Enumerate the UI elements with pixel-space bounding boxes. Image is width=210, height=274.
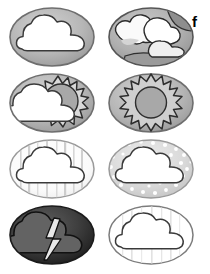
- light-showers-icon-art: [105, 202, 197, 268]
- thunderstorm-icon: [6, 202, 98, 268]
- snow-icon-art: [105, 136, 197, 202]
- sun-disc: [136, 87, 167, 118]
- thunderstorm-icon-art: [6, 202, 98, 268]
- broken-clouds-icon: [105, 4, 197, 70]
- broken-clouds-icon-art: [105, 4, 197, 70]
- partly-sunny-icon: [6, 70, 98, 136]
- cloudy-icon-art: [6, 4, 98, 70]
- weather-icon-figure: f: [0, 0, 210, 274]
- light-showers-icon: [105, 202, 197, 268]
- rain-icon: [6, 136, 98, 202]
- partly-sunny-icon-art: [6, 70, 98, 136]
- snow-icon: [105, 136, 197, 202]
- rain-icon-art: [6, 136, 98, 202]
- panel-label: f: [192, 14, 197, 29]
- sunny-icon: [105, 70, 197, 136]
- cloudy-icon: [6, 4, 98, 70]
- sunny-icon-art: [105, 70, 197, 136]
